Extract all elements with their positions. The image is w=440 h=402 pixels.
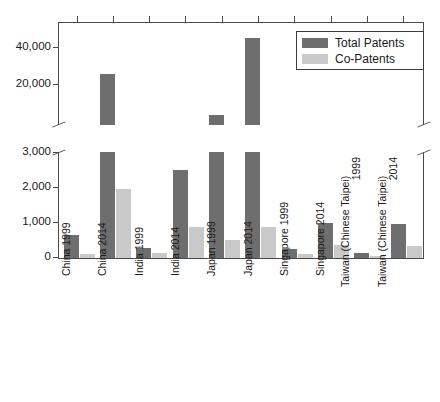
x-label-line: India 2014 (169, 227, 181, 276)
bar-co-singapore-1999 (298, 254, 313, 258)
x-label-japan-2014: Japan 2014 (243, 221, 254, 276)
x-label-line: China 1999 (60, 222, 72, 276)
x-label-line: Singapore 2014 (314, 202, 326, 276)
bar-co-china-2014 (116, 189, 131, 258)
x-label-taiwan-1999: Taiwan (Chinese Taipei) 1999 (340, 157, 362, 287)
x-label-line: China 2014 (96, 222, 108, 276)
x-label-line: Japan 2014 (242, 221, 254, 276)
x-label-china-1999: China 1999 (61, 222, 72, 276)
bar-co-japan-2014 (261, 227, 276, 258)
x-label-india-2014: India 2014 (170, 227, 181, 276)
x-label-line: Taiwan (Chinese Taipei) (339, 176, 351, 287)
bar-co-taiwan-2014 (407, 246, 422, 258)
x-label-line-2: 2014 (388, 157, 399, 287)
x-label-taiwan-2014: Taiwan (Chinese Taipei) 2014 (377, 157, 399, 287)
x-label-line: India 1999 (133, 227, 145, 276)
bar-co-japan-1999 (225, 240, 240, 258)
bars-area (0, 0, 440, 258)
bar-co-china-1999 (80, 254, 95, 258)
x-label-line: Japan 1999 (205, 221, 217, 276)
x-label-singapore-2014: Singapore 2014 (315, 202, 326, 276)
x-label-china-2014: China 2014 (97, 222, 108, 276)
bar-co-india-2014 (189, 227, 204, 258)
x-label-line: Taiwan (Chinese Taipei) (376, 176, 388, 287)
x-label-india-1999: India 1999 (134, 227, 145, 276)
patents-bar-chart: 40,000 20,000 Total Patents Co-Patents (0, 0, 440, 402)
x-label-line: Singapore 1999 (278, 202, 290, 276)
bar-co-india-1999 (152, 253, 167, 258)
x-label-line-2: 1999 (351, 157, 362, 287)
lower-panel-baseline (58, 258, 424, 259)
x-label-singapore-1999: Singapore 1999 (279, 202, 290, 276)
x-label-japan-1999: Japan 1999 (206, 221, 217, 276)
